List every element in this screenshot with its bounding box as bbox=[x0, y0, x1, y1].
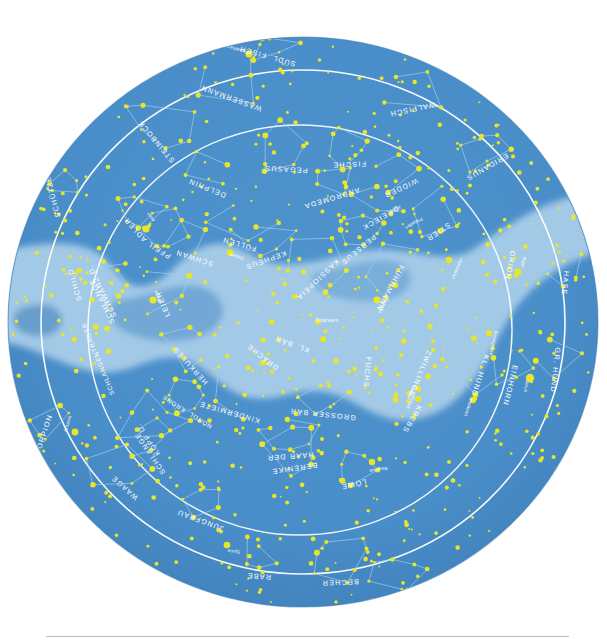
bottom-divider bbox=[46, 636, 569, 637]
star-label: Polarstern bbox=[316, 318, 339, 323]
constellation-label: RABE bbox=[246, 571, 271, 582]
named-star bbox=[446, 257, 453, 264]
named-star bbox=[418, 230, 422, 234]
star-chart-page: · ·· · ··· bbox=[0, 0, 607, 642]
sky-map: SÜDL. FISCHWASSERMANNSTEINBOCKSCHÜTZEDEL… bbox=[0, 0, 607, 642]
named-star bbox=[72, 429, 79, 436]
constellation-label: BECHER bbox=[321, 577, 359, 587]
named-star bbox=[224, 542, 231, 549]
named-star bbox=[515, 269, 522, 276]
named-star bbox=[369, 459, 375, 465]
constellation-label: FISCHE bbox=[332, 159, 366, 169]
named-star bbox=[486, 330, 492, 336]
named-star bbox=[142, 225, 149, 232]
